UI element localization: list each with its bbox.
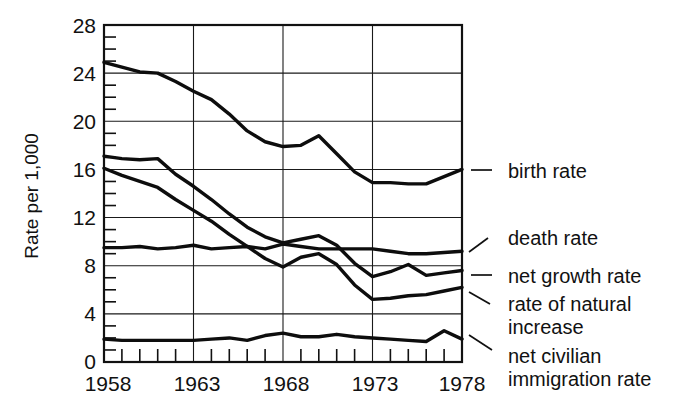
y-axis-tick-labels: 28 24 20 16 12 8 4 0 xyxy=(73,14,97,373)
line-chart: Rate per 1,000 28 24 20 16 12 8 4 0 1958… xyxy=(0,0,692,412)
legend-labels: birth rate death rate net growth rate ra… xyxy=(508,160,651,390)
y-axis-title: Rate per 1,000 xyxy=(21,133,42,259)
y-tick-label: 8 xyxy=(84,254,96,277)
legend-label-immigration-rate-cont: immigration rate xyxy=(508,368,651,390)
y-tick-label: 28 xyxy=(73,14,96,37)
gridlines xyxy=(104,25,462,362)
x-tick-label: 1963 xyxy=(174,372,221,395)
x-tick-label: 1958 xyxy=(85,372,132,395)
legend-leader-lines xyxy=(469,170,492,350)
leader-line-death-rate xyxy=(469,238,488,252)
chart-container: Rate per 1,000 28 24 20 16 12 8 4 0 1958… xyxy=(0,0,692,412)
x-axis-tick-labels: 1958 1963 1968 1973 1978 xyxy=(85,372,486,395)
y-tick-label: 0 xyxy=(84,350,96,373)
x-tick-label: 1968 xyxy=(263,372,310,395)
y-tick-label: 4 xyxy=(84,302,96,325)
y-tick-label: 16 xyxy=(73,158,96,181)
legend-label-birth-rate: birth rate xyxy=(508,160,587,182)
y-tick-label: 24 xyxy=(73,62,97,85)
leader-line-immigration-rate xyxy=(469,335,492,350)
y-tick-label: 20 xyxy=(73,110,96,133)
minor-ticks xyxy=(104,37,444,362)
legend-label-death-rate: death rate xyxy=(508,227,598,249)
x-tick-label: 1978 xyxy=(439,372,486,395)
leader-line-natural-increase xyxy=(469,292,490,304)
y-tick-label: 12 xyxy=(73,206,96,229)
legend-label-immigration-rate: net civilian xyxy=(508,345,601,367)
legend-label-net-growth-rate: net growth rate xyxy=(508,265,641,287)
legend-label-natural-increase: rate of natural xyxy=(508,293,631,315)
x-tick-label: 1973 xyxy=(352,372,399,395)
legend-label-natural-increase-cont: increase xyxy=(508,316,584,338)
